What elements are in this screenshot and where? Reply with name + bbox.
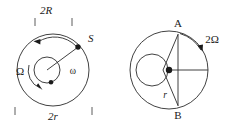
right-panel: A B 2Ω r xyxy=(130,17,219,121)
label-point-B: B xyxy=(174,109,181,121)
line-center-to-B xyxy=(163,70,178,106)
label-omega-capital: Ω xyxy=(16,65,24,77)
center-pivot-dot xyxy=(166,67,172,73)
label-satellite-S: S xyxy=(88,32,94,44)
figure-canvas: 2R 2r S Ω ω A xyxy=(0,0,227,124)
inner-body-dot xyxy=(49,80,54,85)
label-2-omega: 2Ω xyxy=(205,33,219,45)
right-rotation-arrowhead xyxy=(198,45,204,52)
label-point-A: A xyxy=(174,17,182,29)
right-rotation-arc xyxy=(180,34,201,51)
label-omega-lower: ω xyxy=(70,66,76,76)
label-2r: 2r xyxy=(48,110,59,122)
physics-figure: 2R 2r S Ω ω A xyxy=(0,0,227,124)
satellite-point-dot xyxy=(75,44,80,49)
label-2R: 2R xyxy=(40,4,53,16)
line-A-to-center xyxy=(163,35,178,71)
label-radius-r: r xyxy=(163,90,167,100)
outer-rotation-arrowhead xyxy=(34,39,41,45)
left-panel: 2R 2r S Ω ω xyxy=(15,4,94,122)
